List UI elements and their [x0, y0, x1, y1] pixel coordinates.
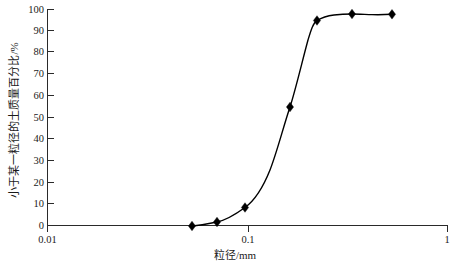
data-markers — [188, 9, 395, 231]
data-point-marker — [348, 9, 355, 19]
y-axis-ticks — [48, 9, 54, 226]
y-axis-tick-labels: 0 10 20 30 40 50 60 70 80 90 100 — [28, 4, 44, 232]
y-tick-label: 70 — [34, 68, 45, 79]
x-axis-tick-labels: 0.01 0.1 1 — [38, 234, 449, 245]
data-point-marker — [241, 203, 248, 213]
x-tick-label: 0.1 — [241, 234, 254, 245]
y-tick-label: 20 — [34, 177, 45, 188]
data-point-marker — [286, 102, 293, 112]
data-point-marker — [388, 10, 395, 20]
y-tick-label: 100 — [28, 4, 44, 15]
y-tick-label: 60 — [34, 90, 45, 101]
x-axis-title: 粒径/mm — [214, 248, 257, 261]
x-tick-label: 0.01 — [38, 234, 56, 245]
y-tick-label: 40 — [34, 133, 45, 144]
y-tick-label: 10 — [34, 198, 45, 209]
data-point-marker — [188, 221, 195, 231]
chart-canvas: 0 10 20 30 40 50 60 70 80 90 100 0.01 0.… — [0, 0, 457, 267]
distribution-curve — [192, 14, 392, 226]
y-axis-title: 小于某一粒径的土质量百分比/% — [7, 42, 20, 197]
y-tick-label: 90 — [34, 25, 45, 36]
particle-size-distribution-chart: 0 10 20 30 40 50 60 70 80 90 100 0.01 0.… — [0, 0, 457, 267]
x-axis-ticks — [48, 226, 448, 233]
y-tick-label: 0 — [39, 220, 44, 231]
y-tick-label: 50 — [34, 112, 45, 123]
x-tick-label: 1 — [444, 234, 449, 245]
y-tick-label: 30 — [34, 155, 45, 166]
y-tick-label: 80 — [34, 46, 45, 57]
